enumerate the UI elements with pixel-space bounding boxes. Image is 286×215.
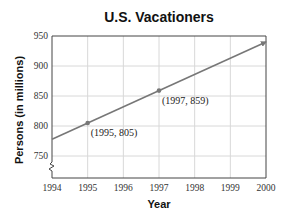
y-tick-label: 950 — [34, 31, 49, 41]
x-tick-label: 1999 — [221, 183, 240, 193]
x-tick-label: 1997 — [150, 183, 169, 193]
data-point-label: (1995, 805) — [91, 127, 138, 139]
line-chart: U.S. Vacationers 19941995199619971998199… — [0, 0, 286, 215]
x-tick-label: 1994 — [43, 183, 62, 193]
y-tick-label: 800 — [34, 121, 49, 131]
x-tick-label: 1995 — [78, 183, 97, 193]
x-tick-label: 2000 — [257, 183, 276, 193]
x-axis-label: Year — [147, 198, 171, 210]
y-axis-label: Persons (in millions) — [13, 56, 25, 165]
x-tick-label: 1998 — [185, 183, 204, 193]
data-point-label: (1997, 859) — [162, 95, 209, 107]
chart-title: U.S. Vacationers — [104, 9, 214, 25]
x-tick-label: 1996 — [114, 183, 133, 193]
y-tick-label: 900 — [34, 61, 49, 71]
y-tick-label: 850 — [34, 91, 49, 101]
data-point — [157, 88, 162, 93]
y-tick-label: 750 — [34, 151, 49, 161]
data-point — [85, 121, 90, 126]
